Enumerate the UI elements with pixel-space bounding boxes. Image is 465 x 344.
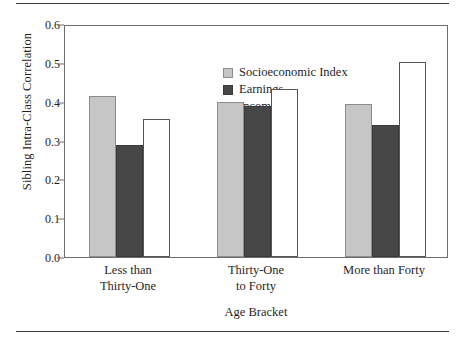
- x-tick-label: More than Forty: [343, 262, 425, 278]
- bar: [271, 89, 298, 257]
- bar-group: [321, 26, 449, 257]
- bars-layer: [65, 26, 447, 257]
- bar: [217, 102, 244, 257]
- bar: [143, 119, 170, 257]
- x-tick-label-line: Thirty-One: [100, 278, 156, 294]
- x-tick-label-line: Thirty-One: [228, 262, 284, 278]
- legend-item: Socioeconomic Index: [223, 65, 348, 80]
- bar-group: [65, 26, 193, 257]
- legend-label: Socioeconomic Index: [239, 65, 348, 80]
- bar: [89, 96, 116, 257]
- y-tick-mark: [57, 219, 64, 220]
- plot-area: Socioeconomic IndexEarningsIncome: [64, 25, 448, 258]
- y-tick-mark: [57, 25, 64, 26]
- x-tick-label-line: More than Forty: [343, 262, 425, 278]
- bar: [372, 125, 399, 257]
- y-tick-mark: [57, 102, 64, 103]
- x-axis-tick-labels: Less thanThirty-OneThirty-Oneto FortyMor…: [64, 262, 448, 302]
- x-tick-label-line: to Forty: [228, 278, 284, 294]
- y-tick-mark: [57, 141, 64, 142]
- bar-chart-figure: Sibling Intra-Class Correlation 0.00.10.…: [0, 0, 465, 344]
- bar-group: [193, 26, 321, 257]
- bar: [345, 104, 372, 257]
- bar: [116, 145, 143, 257]
- y-tick-mark: [57, 258, 64, 259]
- y-axis-tick-labels: 0.00.10.20.30.40.50.6: [0, 25, 64, 258]
- bar: [399, 62, 426, 257]
- x-axis-title: Age Bracket: [64, 305, 448, 320]
- legend-swatch-icon: [223, 68, 233, 78]
- bar: [244, 106, 271, 257]
- x-tick-label: Less thanThirty-One: [100, 262, 156, 294]
- y-tick-mark: [57, 63, 64, 64]
- y-tick-mark: [57, 180, 64, 181]
- legend-swatch-icon: [223, 85, 233, 95]
- x-tick-label: Thirty-Oneto Forty: [228, 262, 284, 294]
- x-tick-label-line: Less than: [100, 262, 156, 278]
